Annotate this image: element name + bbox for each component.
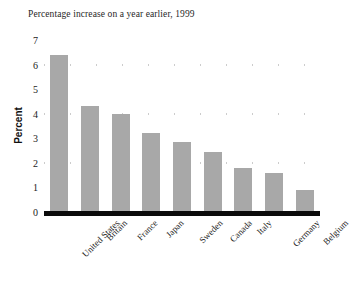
- x-tick-label: Germany: [291, 218, 322, 249]
- chart-title: Percentage increase on a year earlier, 1…: [28, 9, 195, 19]
- y-tick-label: 7: [33, 35, 38, 46]
- x-axis-ticks: United StatesBritainFranceJapanSwedenCan…: [44, 216, 320, 286]
- y-tick-label: 6: [33, 59, 38, 70]
- y-tick-label: 1: [33, 182, 38, 193]
- x-tick-label: Sweden: [197, 218, 224, 245]
- bar: [173, 142, 191, 212]
- y-tick-label: 0: [33, 207, 38, 218]
- y-tick-label: 2: [33, 157, 38, 168]
- x-tick-label: Belgium: [321, 218, 350, 247]
- y-tick-label: 5: [33, 84, 38, 95]
- bar: [81, 106, 99, 212]
- x-tick-label: Japan: [164, 218, 186, 240]
- x-tick-label: France: [135, 218, 159, 242]
- y-tick-label: 4: [33, 108, 38, 119]
- bar: [142, 133, 160, 212]
- x-tick-label: Britain: [104, 218, 129, 243]
- bar: [204, 152, 222, 212]
- bar: [112, 114, 130, 212]
- bar: [296, 190, 314, 212]
- bar: [265, 173, 283, 212]
- bar: [234, 168, 252, 212]
- y-axis-title: Percent: [13, 96, 24, 156]
- y-tick-label: 3: [33, 133, 38, 144]
- bars: [44, 40, 320, 212]
- plot-area: 01234567: [44, 40, 320, 212]
- x-tick-label: Italy: [255, 218, 274, 237]
- x-tick-label: Canada: [228, 218, 254, 244]
- bar: [50, 55, 68, 212]
